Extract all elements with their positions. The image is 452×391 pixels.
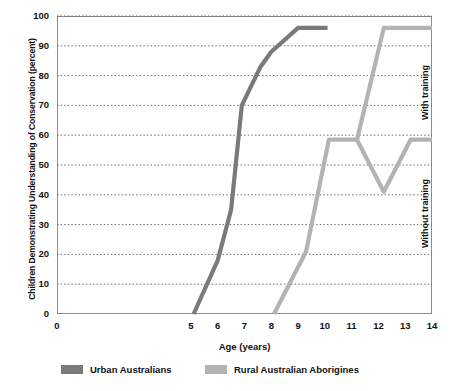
x-axis-title: Age (years) <box>57 341 432 352</box>
x-tick-label: 9 <box>285 321 311 331</box>
y-tick-label: 90 <box>5 41 49 51</box>
y-tick-label: 100 <box>5 11 49 21</box>
x-tick-label: 5 <box>178 321 204 331</box>
x-tick-label: 10 <box>312 321 338 331</box>
y-tick-label: 70 <box>5 100 49 110</box>
series-lines <box>194 28 432 314</box>
y-tick-label: 30 <box>5 220 49 230</box>
x-tick-label: 11 <box>339 321 365 331</box>
chart-legend: Urban Australians Rural Australian Abori… <box>57 363 432 383</box>
y-tick-label: 10 <box>5 279 49 289</box>
x-tick-label: 6 <box>205 321 231 331</box>
legend-item-rural[interactable]: Rural Australian Aborigines <box>205 364 359 375</box>
x-tick-label: 7 <box>232 321 258 331</box>
x-tick-label: 12 <box>365 321 391 331</box>
legend-swatch-urban <box>61 365 83 374</box>
series-line-urban <box>194 28 328 314</box>
x-tick-label: 8 <box>258 321 284 331</box>
conservation-line-chart: Children Demonstrating Understanding of … <box>0 0 452 391</box>
x-tick-label: 0 <box>44 321 70 331</box>
legend-label-urban: Urban Australians <box>90 364 171 375</box>
y-tick-label: 0 <box>5 309 49 319</box>
y-tick-label: 40 <box>5 190 49 200</box>
legend-swatch-rural <box>205 365 227 374</box>
series-line-rural <box>274 140 357 314</box>
x-tick-label: 14 <box>419 321 445 331</box>
y-tick-label: 50 <box>5 160 49 170</box>
legend-item-urban[interactable]: Urban Australians <box>61 364 171 375</box>
legend-label-rural: Rural Australian Aborigines <box>234 364 359 375</box>
chart-svg <box>0 0 452 391</box>
annotation-with-training: With training <box>420 65 430 120</box>
y-tick-label: 60 <box>5 130 49 140</box>
y-tick-label: 80 <box>5 71 49 81</box>
x-tick-label: 13 <box>392 321 418 331</box>
annotation-without-training: Without training <box>420 179 430 248</box>
y-tick-label: 20 <box>5 249 49 259</box>
